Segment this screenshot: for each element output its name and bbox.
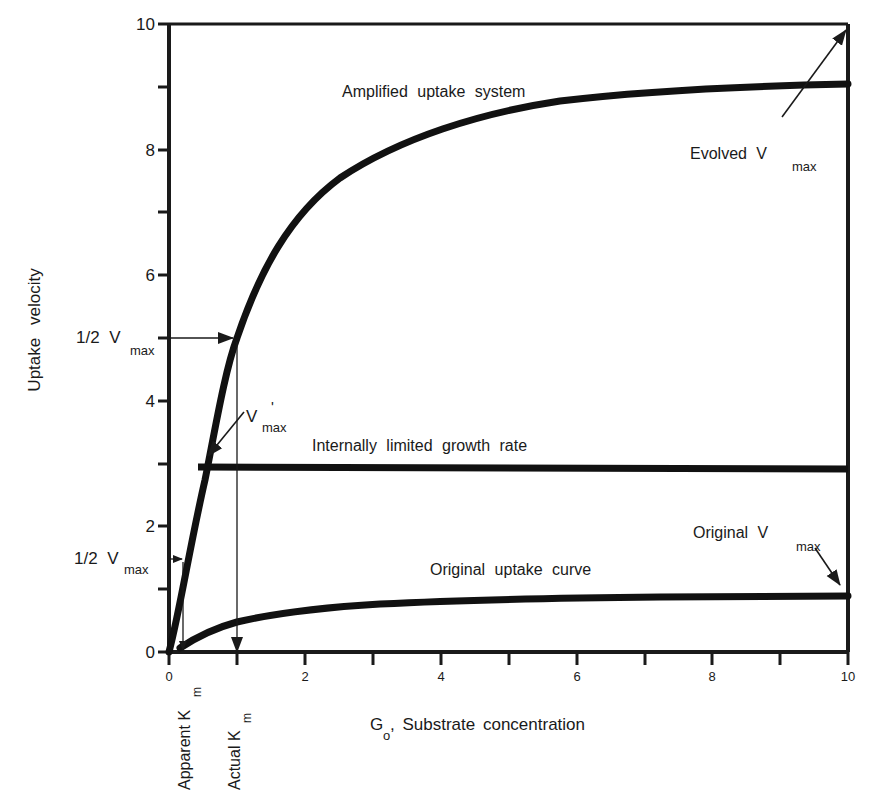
- plot-frame: [169, 24, 848, 652]
- km-labels: Apparent K m Actual K m: [176, 687, 254, 790]
- apparent-km-label: Apparent K: [176, 710, 193, 790]
- x-tick-10: 10: [841, 669, 855, 684]
- reference-lines: [169, 30, 846, 652]
- x-axis-label-rest: , Substrate concentration: [390, 715, 585, 734]
- x-tick-labels: 0 2 4 6 8 10: [165, 669, 855, 684]
- y-tick-6: 6: [146, 266, 155, 285]
- y-axis-label: Uptake velocity: [25, 268, 44, 392]
- internal-limit-line: [198, 467, 848, 469]
- amplified-label: Amplified uptake system: [342, 83, 525, 100]
- evolved-vmax-sub: max: [792, 159, 817, 174]
- x-axis-label-g: G: [370, 715, 383, 734]
- actual-km-label: Actual K: [226, 730, 243, 790]
- half-vmax-upper-label: 1/2 V: [76, 328, 121, 347]
- apparent-km-group: Apparent K m: [176, 687, 204, 790]
- x-tick-8: 8: [708, 669, 715, 684]
- y-tick-8: 8: [146, 141, 155, 160]
- y-tick-4: 4: [146, 392, 155, 411]
- actual-km-group: Actual K m: [226, 713, 254, 790]
- half-vmax-upper-sub: max: [130, 343, 155, 358]
- y-tick-10: 10: [136, 15, 155, 34]
- x-tick-6: 6: [573, 669, 580, 684]
- evolved-vmax-arrow: [782, 30, 846, 117]
- original-vmax-label: Original V: [693, 524, 769, 541]
- half-vmax-lower-sub: max: [124, 562, 149, 577]
- evolved-vmax-label: Evolved V: [690, 145, 767, 162]
- half-vmax-lower-label: 1/2 V: [74, 549, 119, 568]
- uptake-chart: 10 8 6 4 2 0 0 2 4 6 8 10 Uptake velocit…: [0, 0, 874, 811]
- y-tick-2: 2: [146, 517, 155, 536]
- x-tick-4: 4: [437, 669, 444, 684]
- vmax-prime-sup: ': [271, 398, 274, 415]
- y-tick-0: 0: [146, 643, 155, 662]
- x-tick-2: 2: [301, 669, 308, 684]
- vmax-prime-sub: max: [262, 420, 287, 435]
- internal-limit-label: Internally limited growth rate: [312, 437, 527, 454]
- apparent-km-sub: m: [190, 687, 204, 697]
- vmax-prime-label: V: [246, 407, 258, 426]
- actual-km-sub: m: [240, 713, 254, 723]
- original-uptake-curve: [180, 596, 848, 648]
- original-vmax-sub: max: [796, 539, 821, 554]
- original-curve-label: Original uptake curve: [430, 561, 591, 578]
- x-axis-label: G o , Substrate concentration: [370, 715, 585, 743]
- x-tick-0: 0: [165, 669, 172, 684]
- annotations: Amplified uptake system Evolved V max 1/…: [74, 83, 821, 578]
